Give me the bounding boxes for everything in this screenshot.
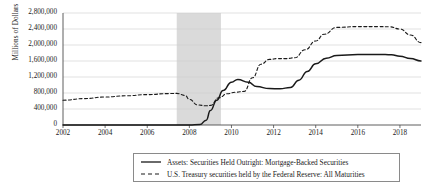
legend: Assets: Securities Held Outright: Mortga… (133, 153, 400, 182)
legend-item-treasury: U.S. Treasury securities held by the Fed… (140, 168, 365, 180)
legend-item-mbs: Assets: Securities Held Outright: Mortga… (140, 156, 348, 168)
x-axis-tick-label: 2016 (338, 129, 378, 137)
series-line-mbs (63, 54, 421, 125)
y-axis-tick-label: 1,200,000 (5, 72, 57, 80)
y-axis-tick-label: 2,400,000 (5, 24, 57, 32)
legend-swatch-dashed (140, 170, 162, 178)
x-axis-tick-label: 2018 (380, 129, 420, 137)
y-axis-tick-label: 400,000 (5, 104, 57, 112)
x-axis-tick-label: 2002 (43, 129, 83, 137)
chart-container: Millions of Dollars Assets: Securities H… (0, 0, 434, 189)
recession-band (177, 13, 221, 125)
x-axis-tick-label: 2004 (85, 129, 125, 137)
x-axis-tick-label: 2012 (254, 129, 294, 137)
legend-label-mbs: Assets: Securities Held Outright: Mortga… (167, 158, 348, 167)
y-axis-tick-label: 2,800,000 (5, 8, 57, 16)
y-axis-tick-label: 2,000,000 (5, 40, 57, 48)
legend-swatch-solid (140, 158, 162, 166)
y-axis-tick-label: 0 (5, 120, 57, 128)
series-line-treasury (63, 27, 421, 106)
x-axis-tick-label: 2014 (296, 129, 336, 137)
y-axis-tick-label: 1,600,000 (5, 56, 57, 64)
legend-label-treasury: U.S. Treasury securities held by the Fed… (167, 170, 365, 179)
y-axis-tick-label: 800,000 (5, 88, 57, 96)
x-axis-tick-label: 2010 (211, 129, 251, 137)
x-axis-tick-label: 2006 (127, 129, 167, 137)
x-axis-tick-label: 2008 (169, 129, 209, 137)
